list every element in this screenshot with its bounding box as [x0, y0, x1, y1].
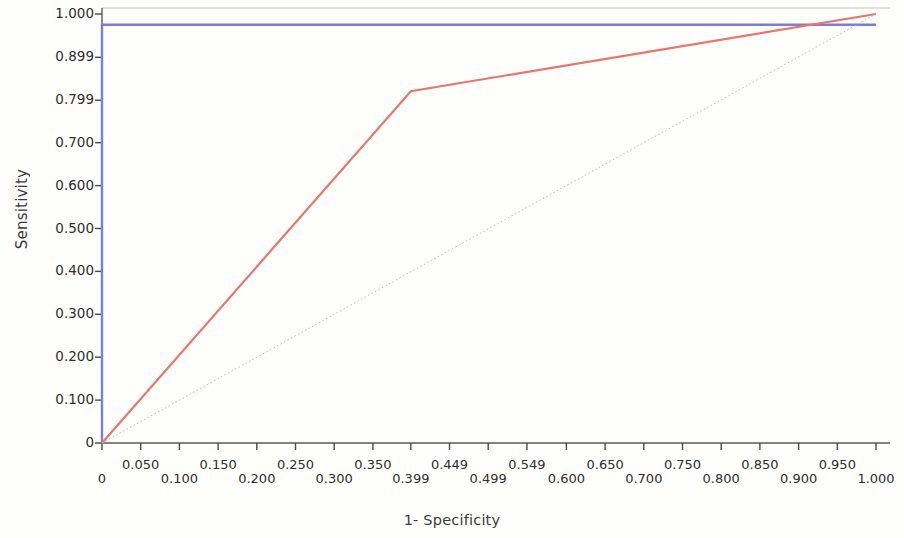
- x-tick-label: 0: [70, 471, 134, 486]
- x-tick-label: 0.250: [264, 457, 328, 472]
- x-tick-label: 0.499: [456, 471, 520, 486]
- x-tick-label-group: 00.0500.1000.1500.2000.2500.3000.3500.39…: [0, 0, 904, 538]
- x-tick-label: 0.300: [302, 471, 366, 486]
- x-tick-label: 0.449: [418, 457, 482, 472]
- x-tick-label: 0.200: [225, 471, 289, 486]
- x-tick-label: 0.600: [534, 471, 598, 486]
- x-tick-label: 0.100: [147, 471, 211, 486]
- x-tick-label: 0.850: [728, 457, 792, 472]
- x-tick-label: 0.350: [341, 457, 405, 472]
- x-axis-title: 1- Specificity: [0, 512, 904, 528]
- x-tick-label: 1.000: [844, 471, 904, 486]
- x-tick-label: 0.050: [109, 457, 173, 472]
- x-tick-label: 0.549: [495, 457, 559, 472]
- roc-chart: 1.0000.8990.7990.7000.6000.5000.4000.300…: [0, 0, 904, 538]
- x-tick-label: 0.150: [186, 457, 250, 472]
- x-tick-label: 0.399: [379, 471, 443, 486]
- x-tick-label: 0.800: [689, 471, 753, 486]
- x-tick-label: 0.700: [612, 471, 676, 486]
- x-tick-label: 0.950: [805, 457, 869, 472]
- x-tick-label: 0.900: [767, 471, 831, 486]
- x-tick-label: 0.750: [651, 457, 715, 472]
- x-tick-label: 0.650: [573, 457, 637, 472]
- y-axis-title: Sensitivity: [13, 149, 31, 269]
